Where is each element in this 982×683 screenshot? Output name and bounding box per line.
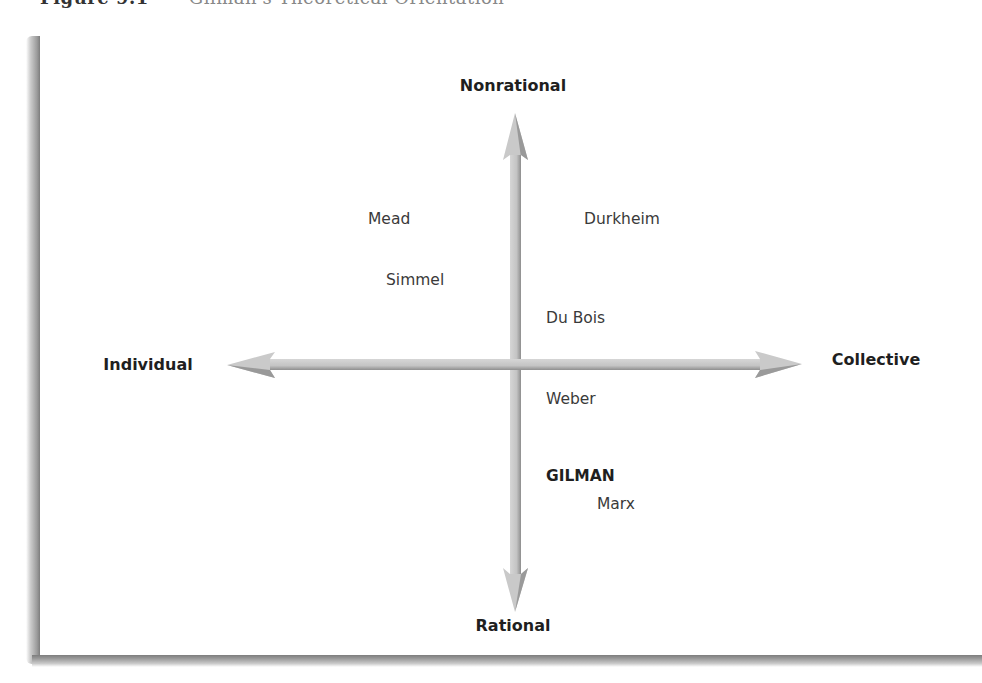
theorist-marx: Marx [597,497,635,513]
theorist-mead: Mead [368,212,410,228]
axis-label-individual: Individual [103,357,192,373]
theorist-durkheim: Durkheim [584,212,660,228]
axis-label-nonrational: Nonrational [460,78,566,94]
theorist-du-bois: Du Bois [546,311,605,327]
axis-label-collective: Collective [832,352,920,368]
theorist-gilman: GILMAN [546,469,615,485]
theorist-simmel: Simmel [386,273,444,289]
axis-label-rational: Rational [476,618,551,634]
theorist-weber: Weber [546,392,596,408]
